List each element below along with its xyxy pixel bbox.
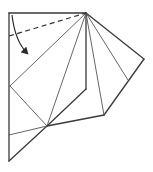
curved-arrow-icon: [12, 15, 27, 53]
right-upper-edge: [86, 13, 144, 59]
inner-diagonal-edge: [47, 89, 86, 126]
right-lower-edge: [104, 59, 144, 115]
bottom-edge: [47, 115, 104, 126]
crease-left-junction: [10, 86, 47, 126]
crease-apex-left: [10, 13, 86, 86]
crease-apex-bottom-right: [86, 13, 104, 115]
crease-apex-junction: [47, 13, 86, 126]
origami-diagram: [0, 0, 153, 172]
bottom-left-edge: [9, 126, 47, 161]
